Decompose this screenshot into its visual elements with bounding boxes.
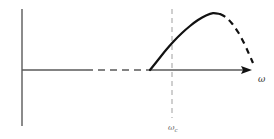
plot-canvas: ω ωc	[0, 0, 274, 139]
horizontal-axis-label: ω	[258, 74, 266, 84]
response-curve-dashed-tail	[220, 14, 253, 63]
response-curve-solid	[150, 13, 220, 70]
critical-frequency-label: ωc	[168, 123, 178, 133]
figure-container: ω ωc	[0, 0, 274, 139]
